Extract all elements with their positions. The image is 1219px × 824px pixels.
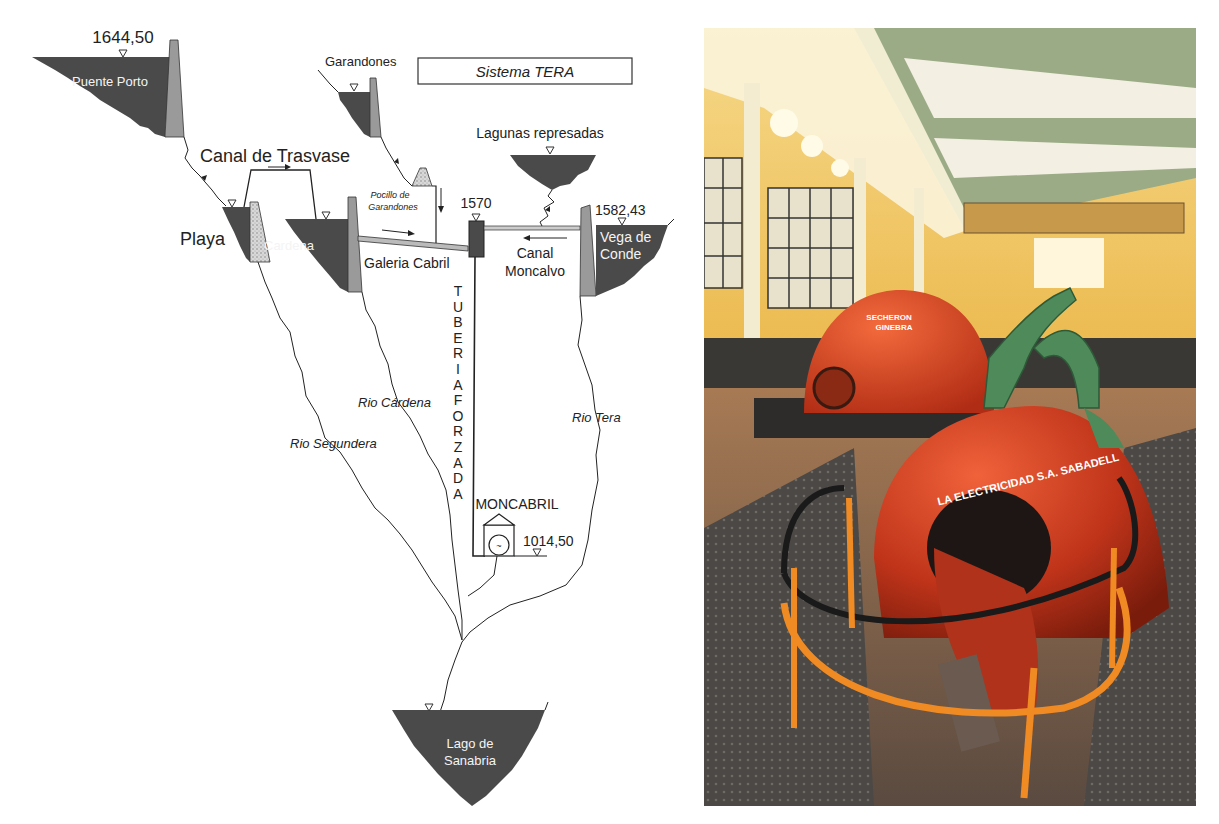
canal-moncalvo: Canal Moncalvo <box>484 226 580 279</box>
back-generator-text-2: GINEBRA <box>876 323 913 332</box>
penstock-letter: A <box>453 455 463 471</box>
penstock-letter: R <box>453 345 463 361</box>
photo-crane <box>964 203 1184 233</box>
powerhouse-label: MONCABRIL <box>475 496 558 512</box>
penstock-label: TUBERIAFORZADA <box>453 283 464 502</box>
reservoir-garandones: Garandones <box>318 54 397 137</box>
reservoir-cardena: Cardena <box>264 197 362 292</box>
sanabria-label-2: Sanabria <box>444 753 497 768</box>
penstock-letter: T <box>454 283 463 299</box>
penstock-letter: F <box>454 392 463 408</box>
puente-porto-elevation: 1644,50 <box>92 28 153 47</box>
garandones-label: Garandones <box>325 54 397 69</box>
svg-text:~: ~ <box>496 541 501 551</box>
penstock-letter: Z <box>454 439 463 455</box>
penstock-letter: A <box>453 486 463 502</box>
river-cardena-label: Rio Cárdena <box>358 395 431 410</box>
river-cardena: Rio Cárdena <box>358 292 462 640</box>
river-tera-label: Rio Tera <box>572 410 621 425</box>
galeria-cabril-label: Galeria Cabril <box>364 255 450 271</box>
cardena-label: Cardena <box>264 238 315 253</box>
penstock-letter: U <box>453 299 463 315</box>
galeria-cabril: Galeria Cabril <box>358 230 468 271</box>
penstock-letter: E <box>453 330 462 346</box>
powerhouse-moncabril: MONCABRIL ~ 1014,50 <box>468 496 574 596</box>
system-title: Sistema TERA <box>476 63 574 80</box>
penstock-letter: I <box>456 361 460 377</box>
lagunas-label: Lagunas represadas <box>476 125 604 141</box>
canal-moncalvo-label-1: Canal <box>517 245 554 261</box>
penstock-letter: D <box>453 470 463 486</box>
penstock-letter: B <box>453 314 462 330</box>
river-segundera-label: Rio Segundera <box>290 436 377 451</box>
power-station-photo: SECHERON GINEBRA LA ELECTRICIDAD S.A. SA… <box>704 28 1196 806</box>
back-generator-text-1: SECHERON <box>866 313 912 322</box>
vega-de-conde-elevation: 1582,43 <box>595 202 646 218</box>
canal-moncalvo-label-2: Moncalvo <box>505 263 565 279</box>
penstock-letter: A <box>453 377 463 393</box>
reservoir-vega-de-conde: 1582,43 Vega de Conde <box>580 202 674 296</box>
reservoir-playa: Playa <box>180 200 270 262</box>
playa-label: Playa <box>180 229 226 249</box>
penstock-letter: R <box>453 423 463 439</box>
hydro-scheme-diagram: Sistema TERA 1644,50 Puente Porto Canal … <box>0 0 700 824</box>
system-title-box: Sistema TERA <box>418 58 632 84</box>
sanabria-label-1: Lago de <box>447 736 494 751</box>
canal-de-trasvase: Canal de Trasvase <box>200 146 350 219</box>
canal-trasvase-label: Canal de Trasvase <box>200 146 350 166</box>
reservoir-lago-de-sanabria: Lago de Sanabria <box>392 702 548 806</box>
vega-de-conde-label-2: Conde <box>600 246 641 262</box>
vega-de-conde-label-1: Vega de <box>600 229 652 245</box>
penstock-letter: O <box>453 408 464 424</box>
powerhouse-elevation: 1014,50 <box>523 533 574 549</box>
pocillo-label-1: Pocillo de <box>370 190 409 200</box>
pocillo-label-2: Garandones <box>368 202 418 212</box>
river-segundera: Rio Segundera <box>258 262 462 640</box>
puente-porto-label: Puente Porto <box>72 74 148 89</box>
reservoir-puente-porto: 1644,50 Puente Porto <box>32 28 184 137</box>
chamber-elevation: 1570 <box>460 195 491 211</box>
